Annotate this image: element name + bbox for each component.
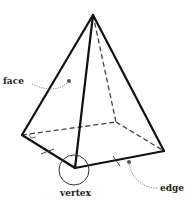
hidden-edge-apex-back — [93, 15, 116, 122]
visible-edges — [22, 15, 164, 168]
face-leader-dot — [67, 79, 71, 83]
right-angle-marker — [29, 134, 36, 138]
edge-apex-front — [75, 15, 93, 168]
hidden-edge-left-back — [22, 122, 116, 135]
hidden-edges — [22, 15, 164, 151]
pyramid-figure: face edge vertex — [0, 0, 192, 208]
face-label: face — [3, 76, 24, 86]
edge-apex-left — [22, 15, 93, 135]
vertex-label: vertex — [59, 188, 92, 198]
edge-leader-line — [129, 162, 157, 188]
edge-apex-right — [93, 15, 164, 151]
edge-leader-dot — [127, 160, 131, 164]
vertex-highlight-circle — [59, 155, 89, 185]
pyramid-diagram: face edge vertex — [0, 0, 192, 208]
edge-label: edge — [160, 183, 184, 193]
